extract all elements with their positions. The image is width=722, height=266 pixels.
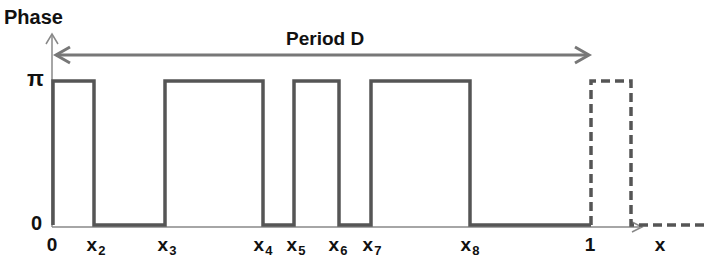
x-tick-0: 0 (47, 234, 58, 256)
x-tick-x4: x4 (254, 234, 273, 258)
phase-signal-continuation (591, 81, 705, 225)
y-level-high: π (27, 66, 44, 92)
y-level-low: 0 (31, 212, 42, 235)
x-tick-x7: x7 (363, 234, 382, 258)
x-tick-x5: x5 (287, 234, 306, 258)
x-tick-x3: x3 (158, 234, 177, 258)
period-label: Period D (286, 28, 364, 50)
x-tick-x8: x8 (461, 234, 480, 258)
x-axis-label: x (655, 234, 666, 256)
x-tick-x2: x2 (87, 234, 106, 258)
x-tick-x6: x6 (329, 234, 348, 258)
x-tick-1: 1 (585, 234, 596, 256)
y-axis-label: Phase (4, 6, 63, 29)
phase-signal (53, 81, 591, 225)
